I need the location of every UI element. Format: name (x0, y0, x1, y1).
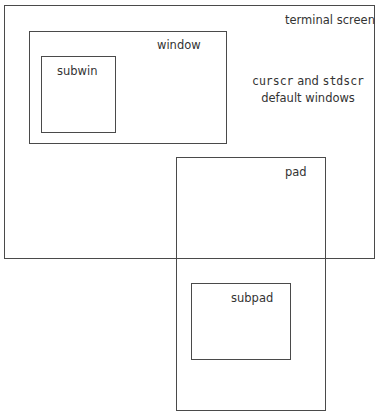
default-windows-note: curscr and stdscr default windows (244, 73, 372, 107)
terminal-screen-label: terminal screen (285, 13, 375, 27)
subpad-label: subpad (231, 291, 273, 305)
and-label: and (294, 74, 323, 88)
default-windows-label: default windows (244, 90, 372, 107)
subwin-label: subwin (57, 64, 97, 78)
stdscr-label: stdscr (322, 74, 364, 88)
pad-label: pad (285, 165, 307, 179)
window-label: window (157, 38, 201, 52)
curscr-label: curscr (252, 74, 294, 88)
